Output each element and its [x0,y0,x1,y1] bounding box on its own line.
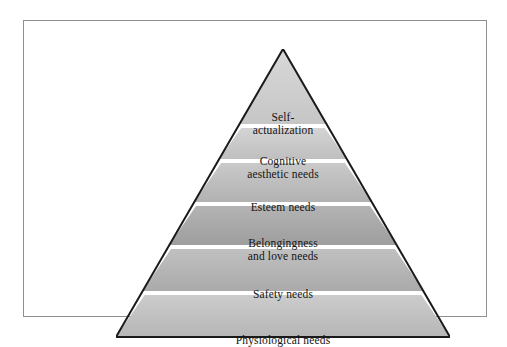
pyramid-tier-6 [116,295,450,337]
pyramid-tier-4 [169,206,396,245]
pyramid-tier-3 [194,163,371,202]
pyramid-diagram: Self- actualization Cognitive aesthetic … [116,49,450,338]
pyramid-tier-5 [143,249,424,291]
pyramid-svg [116,49,450,338]
pyramid-tier-2 [219,128,347,159]
figure-frame: Self- actualization Cognitive aesthetic … [23,20,487,317]
pyramid-tier-1 [240,49,327,124]
